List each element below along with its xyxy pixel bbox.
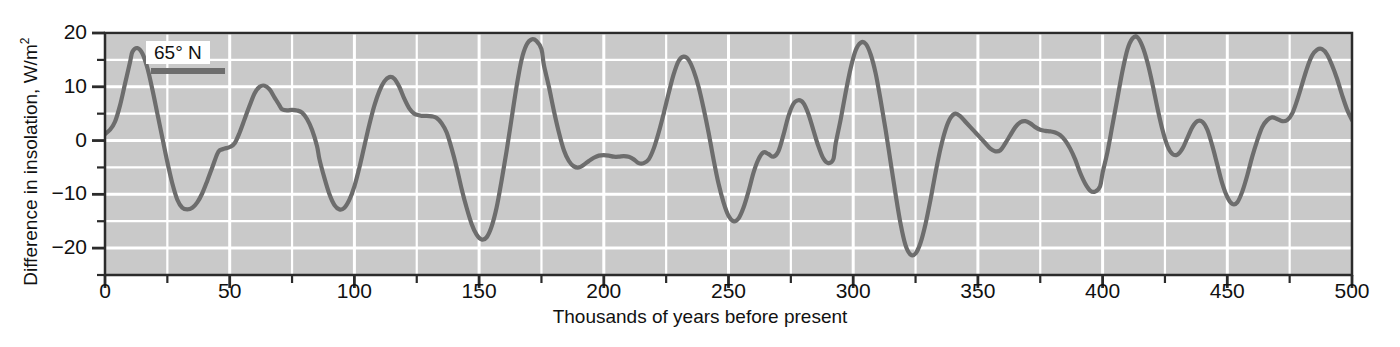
legend-bar: [151, 68, 225, 74]
x-tick-label: 500: [1312, 280, 1392, 301]
x-tick-label: 0: [65, 280, 145, 301]
y-tick-label: 0: [0, 129, 87, 150]
x-tick-label: 50: [190, 280, 270, 301]
y-tick-label: −10: [0, 182, 87, 203]
y-tick-label: 20: [0, 21, 87, 42]
insolation-chart-figure: Difference in insolation, W/m2 Thousands…: [0, 0, 1400, 347]
gridlines: [105, 33, 1352, 275]
x-tick-label: 450: [1187, 280, 1267, 301]
x-tick-label: 200: [564, 280, 644, 301]
y-tick-label: 10: [0, 75, 87, 96]
x-tick-label: 100: [314, 280, 394, 301]
x-tick-label: 150: [439, 280, 519, 301]
y-tick-label: −20: [0, 236, 87, 257]
x-tick-label: 250: [689, 280, 769, 301]
x-tick-label: 400: [1063, 280, 1143, 301]
x-tick-label: 300: [813, 280, 893, 301]
legend-label-65n: 65° N: [146, 41, 210, 64]
x-tick-label: 350: [938, 280, 1018, 301]
